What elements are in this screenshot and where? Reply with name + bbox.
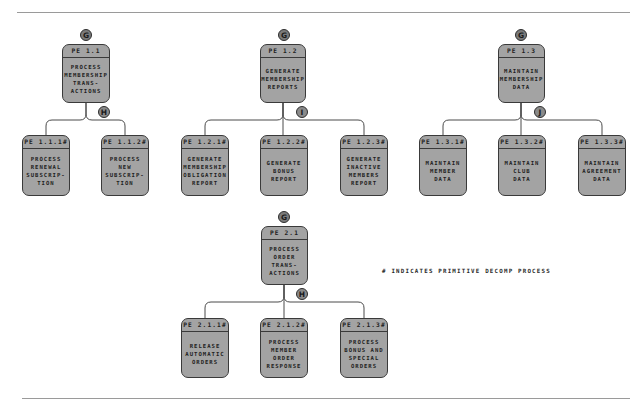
process-label: PROCESS BONUS AND SPECIAL ORDERS (341, 332, 387, 377)
badge-j-pe-1-3: J (534, 106, 546, 118)
process-id: PE 1.3 (499, 45, 544, 58)
label-line: RENEWAL (31, 163, 62, 171)
process-box-pe-1-1[interactable]: PE 1.1 PROCESS MEMBERSHIP TRANS- ACTIONS (62, 44, 110, 103)
process-id: PE 2.1.3# (341, 319, 387, 332)
process-label: GENERATE INACTIVE MEMBERS REPORT (341, 149, 387, 195)
label-line: ACTIONS (269, 269, 300, 277)
process-label: GENERATE BONUS REPORT (261, 149, 307, 195)
badge-g-pe-1-2: G (278, 29, 290, 41)
label-line: ORDERS (192, 358, 218, 366)
label-line: ORDER (273, 354, 295, 362)
label-line: MEMBERSHIP (183, 163, 227, 171)
process-box-pe-1-3-2[interactable]: PE 1.3.2# MAINTAIN CLUB DATA (498, 135, 546, 196)
badge-g-pe-1-1: G (80, 29, 92, 41)
process-label: PROCESS NEW SUBSCRIP- TION (102, 149, 148, 195)
label-line: AUTOMATIC (185, 350, 224, 358)
label-line: REPORT (271, 175, 297, 183)
process-id: PE 1.3.1# (420, 136, 466, 149)
badge-g-pe-2-1: G (278, 211, 290, 223)
process-id: PE 1.2.1# (182, 136, 228, 149)
label-line: MEMBERSHIP (64, 71, 108, 79)
process-label: MAINTAIN MEMBERSHIP DATA (499, 58, 544, 102)
process-label: PROCESS ORDER TRANS- ACTIONS (262, 240, 307, 284)
label-line: PROCESS (349, 338, 380, 346)
label-line: MAINTAIN (585, 159, 620, 167)
process-box-pe-1-2[interactable]: PE 1.2 GENERATE MEMBERSHIP REPORTS (260, 44, 306, 103)
process-label: PROCESS RENEWAL SUBSCRIP- TION (23, 149, 69, 195)
label-line: RESPONSE (267, 362, 302, 370)
label-line: GENERATE (266, 67, 301, 75)
label-line: TION (37, 179, 54, 187)
process-id: PE 1.2.3# (341, 136, 387, 149)
label-line: PROCESS (269, 338, 300, 346)
process-label: GENERATE MEMBERSHIP OBLIGATION REPORT (182, 149, 228, 195)
label-line: AGREEMENT (582, 167, 621, 175)
process-box-pe-1-3[interactable]: PE 1.3 MAINTAIN MEMBERSHIP DATA (498, 44, 545, 103)
label-line: INACTIVE (347, 163, 382, 171)
label-line: TRANS- (271, 261, 297, 269)
process-label: GENERATE MEMBERSHIP REPORTS (261, 58, 305, 102)
label-line: NEW (118, 163, 131, 171)
process-id: PE 2.1.2# (261, 319, 307, 332)
badge-h-pe-1-1: H (98, 106, 110, 118)
process-box-pe-1-1-2[interactable]: PE 1.1.2# PROCESS NEW SUBSCRIP- TION (101, 135, 149, 196)
label-line: ORDER (274, 253, 296, 261)
process-id: PE 1.1.2# (102, 136, 148, 149)
process-box-pe-1-2-1[interactable]: PE 1.2.1# GENERATE MEMBERSHIP OBLIGATION… (181, 135, 229, 196)
label-line: MEMBERSHIP (261, 75, 305, 83)
label-line: RELEASE (190, 342, 221, 350)
label-line: MEMBERS (349, 171, 380, 179)
process-label: RELEASE AUTOMATIC ORDERS (182, 332, 228, 377)
badge-h-pe-2-1: H (296, 288, 308, 300)
label-line: PROCESS (269, 245, 300, 253)
label-line: MAINTAIN (426, 159, 461, 167)
process-box-pe-1-3-1[interactable]: PE 1.3.1# MAINTAIN MEMBER DATA (419, 135, 467, 196)
process-id: PE 1.1 (63, 45, 109, 58)
label-line: REPORT (192, 179, 218, 187)
label-line: DATA (434, 175, 451, 183)
process-box-pe-1-3-3[interactable]: PE 1.3.3# MAINTAIN AGREEMENT DATA (578, 135, 626, 196)
label-line: REPORT (351, 179, 377, 187)
process-box-pe-2-1-1[interactable]: PE 2.1.1# RELEASE AUTOMATIC ORDERS (181, 318, 229, 378)
label-line: MAINTAIN (504, 67, 539, 75)
label-line: GENERATE (267, 159, 302, 167)
legend-note: # INDICATES PRIMITIVE DECOMP PROCESS (382, 268, 551, 274)
label-line: ACTIONS (71, 87, 102, 95)
label-line: SUBSCRIP- (105, 171, 144, 179)
label-line: MEMBERSHIP (500, 75, 544, 83)
process-label: PROCESS MEMBER ORDER RESPONSE (261, 332, 307, 377)
label-line: BONUS AND (344, 346, 383, 354)
process-id: PE 2.1 (262, 227, 307, 240)
label-line: DATA (513, 175, 530, 183)
label-line: BONUS (273, 167, 295, 175)
label-line: ORDERS (351, 362, 377, 370)
process-id: PE 1.2 (261, 45, 305, 58)
label-line: PROCESS (71, 63, 102, 71)
process-label: MAINTAIN CLUB DATA (499, 149, 545, 195)
label-line: GENERATE (347, 155, 382, 163)
process-label: PROCESS MEMBERSHIP TRANS- ACTIONS (63, 58, 109, 102)
label-line: OBLIGATION (183, 171, 227, 179)
process-label: MAINTAIN AGREEMENT DATA (579, 149, 625, 195)
label-line: SPECIAL (349, 354, 380, 362)
label-line: MEMBER (430, 167, 456, 175)
label-line: GENERATE (188, 155, 223, 163)
badge-i-pe-1-2: I (296, 106, 308, 118)
label-line: SUBSCRIP- (26, 171, 65, 179)
process-box-pe-2-1-2[interactable]: PE 2.1.2# PROCESS MEMBER ORDER RESPONSE (260, 318, 308, 378)
process-id: PE 1.1.1# (23, 136, 69, 149)
process-id: PE 1.2.2# (261, 136, 307, 149)
process-box-pe-2-1-3[interactable]: PE 2.1.3# PROCESS BONUS AND SPECIAL ORDE… (340, 318, 388, 378)
process-box-pe-2-1[interactable]: PE 2.1 PROCESS ORDER TRANS- ACTIONS (261, 226, 308, 285)
label-line: TRANS- (73, 79, 99, 87)
process-box-pe-1-1-1[interactable]: PE 1.1.1# PROCESS RENEWAL SUBSCRIP- TION (22, 135, 70, 196)
process-box-pe-1-2-2[interactable]: PE 1.2.2# GENERATE BONUS REPORT (260, 135, 308, 196)
process-id: PE 1.3.3# (579, 136, 625, 149)
process-box-pe-1-2-3[interactable]: PE 1.2.3# GENERATE INACTIVE MEMBERS REPO… (340, 135, 388, 196)
label-line: PROCESS (31, 155, 62, 163)
process-id: PE 2.1.1# (182, 319, 228, 332)
label-line: DATA (513, 83, 530, 91)
process-id: PE 1.3.2# (499, 136, 545, 149)
label-line: DATA (593, 175, 610, 183)
badge-g-pe-1-3: G (515, 29, 527, 41)
